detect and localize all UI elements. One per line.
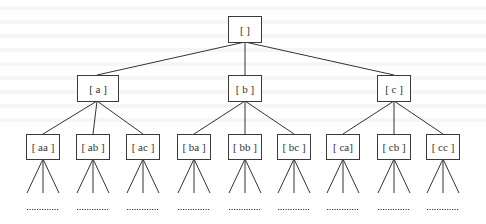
edge-b-bc: [245, 101, 294, 134]
node-b: [ b ]: [228, 75, 262, 102]
node-bc: [ bc ]: [277, 134, 311, 160]
node-bb: [ bb ]: [228, 134, 262, 160]
edge-a-ab: [93, 101, 97, 134]
node-aa: [ aa ]: [26, 134, 60, 160]
edge-b-ba: [194, 101, 245, 134]
node-ab: [ ab ]: [76, 134, 110, 160]
tree-diagram: [ ] [ a ] [ b ] [ c ] [ aa ] [ ab ] [ ac…: [0, 0, 486, 224]
node-ac: [ ac ]: [126, 134, 160, 160]
edge-a-ac: [97, 101, 143, 134]
node-cb: [ cb ]: [377, 134, 411, 160]
node-root: [ ]: [228, 16, 262, 43]
node-ca: [ ca]: [326, 134, 360, 160]
edge-a-aa: [43, 101, 97, 134]
node-a: [ a ]: [77, 75, 119, 102]
edge-c-cc: [394, 101, 443, 134]
node-c: [ c ]: [377, 75, 411, 102]
leaf-fans: [27, 159, 459, 193]
edge-root-a: [97, 42, 245, 75]
edge-root-c: [245, 42, 394, 75]
node-cc: [ cc ]: [426, 134, 460, 160]
edge-c-ca: [343, 101, 394, 134]
node-ba: [ ba ]: [177, 134, 211, 160]
